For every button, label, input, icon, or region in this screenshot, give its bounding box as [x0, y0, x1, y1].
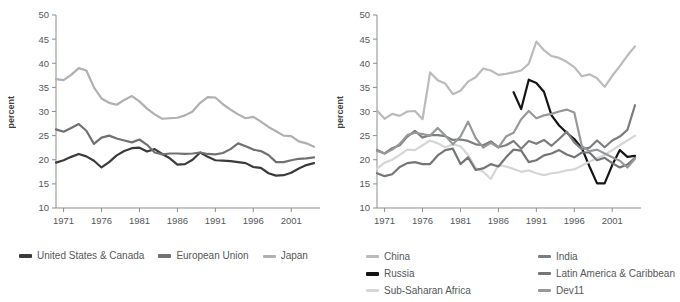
legend-label: Russia — [384, 266, 415, 282]
y-axis-tick-label: 20 — [38, 154, 49, 165]
legend-swatch-icon — [158, 254, 171, 258]
legend-swatch-icon — [19, 254, 32, 258]
y-axis-tick-label: 35 — [38, 82, 49, 93]
line-chart-left: 1015202530354045501971197619811986199119… — [0, 0, 327, 245]
x-axis-tick-label: 1986 — [488, 215, 509, 226]
legend-item-latin-america-caribbean[interactable]: Latin America & Caribbean — [538, 266, 680, 282]
legend-item-china[interactable]: China — [366, 249, 538, 265]
legend-label: United States & Canada — [37, 248, 144, 264]
legend-label: European Union — [176, 248, 248, 264]
legend-label: India — [556, 249, 578, 265]
y-axis-tick-label: 25 — [38, 130, 49, 141]
y-axis-tick-label: 15 — [359, 178, 370, 189]
chart-panel-emerging-economies: percent 10152025303540455019711976198119… — [327, 0, 653, 302]
legend-label: Sub-Saharan Africa — [384, 283, 471, 299]
legend-swatch-icon — [263, 255, 276, 258]
legend-left-row: United States & CanadaEuropean UnionJapa… — [0, 248, 327, 264]
y-axis-tick-label: 40 — [359, 58, 370, 69]
series-line-russia — [514, 80, 635, 184]
series-line-latin-america-caribbean — [377, 149, 635, 177]
x-axis-tick-label: 1986 — [167, 215, 188, 226]
legend-swatch-icon — [366, 255, 379, 258]
legend-item-dev11[interactable]: Dev11 — [538, 283, 680, 299]
y-axis-tick-label: 25 — [359, 130, 370, 141]
legend-swatch-icon — [538, 255, 551, 258]
legend-swatch-icon — [538, 289, 551, 292]
legend-item-japan[interactable]: Japan — [263, 248, 308, 264]
x-axis-tick-label: 1991 — [205, 215, 226, 226]
x-axis-tick-label: 1981 — [129, 215, 150, 226]
series-line-japan — [56, 68, 314, 147]
x-axis-tick-label: 2001 — [281, 215, 302, 226]
y-axis-tick-label: 35 — [359, 82, 370, 93]
legend-swatch-icon — [366, 289, 379, 292]
y-axis-tick-label: 45 — [38, 34, 49, 45]
x-axis-tick-label: 1991 — [526, 215, 547, 226]
y-axis-tick-label: 10 — [38, 202, 49, 213]
x-axis-tick-label: 1971 — [53, 215, 74, 226]
x-axis-tick-label: 1996 — [243, 215, 264, 226]
chart-panel-advanced-economies: percent 10152025303540455019711976198119… — [0, 0, 327, 302]
y-axis-tick-label: 10 — [359, 202, 370, 213]
y-axis-tick-label: 40 — [38, 58, 49, 69]
legend-item-sub-saharan-africa[interactable]: Sub-Saharan Africa — [366, 283, 538, 299]
x-axis-tick-label: 1976 — [91, 215, 112, 226]
legend-item-european-union[interactable]: European Union — [158, 248, 248, 264]
y-axis-tick-label: 20 — [359, 154, 370, 165]
legend-item-united-states-canada[interactable]: United States & Canada — [19, 248, 144, 264]
x-axis-tick-label: 2001 — [602, 215, 623, 226]
legend-left: United States & CanadaEuropean UnionJapa… — [0, 248, 327, 264]
legend-label: China — [384, 249, 410, 265]
y-axis-tick-label: 30 — [38, 106, 49, 117]
y-axis-tick-label: 30 — [359, 106, 370, 117]
series-line-china — [377, 42, 635, 120]
y-axis-tick-label: 50 — [359, 9, 370, 20]
legend-right: ChinaIndiaRussiaLatin America & Caribbea… — [327, 248, 680, 299]
legend-item-russia[interactable]: Russia — [366, 266, 538, 282]
line-chart-right: 1015202530354045501971197619811986199119… — [327, 0, 653, 245]
legend-label: Japan — [281, 248, 308, 264]
legend-swatch-icon — [366, 272, 379, 276]
y-axis-tick-label: 45 — [359, 34, 370, 45]
plot-area-right: 1015202530354045501971197619811986199119… — [327, 0, 653, 245]
x-axis-tick-label: 1981 — [450, 215, 471, 226]
x-axis-tick-label: 1996 — [564, 215, 585, 226]
legend-item-india[interactable]: India — [538, 249, 680, 265]
x-axis-tick-label: 1976 — [412, 215, 433, 226]
plot-area-left: 1015202530354045501971197619811986199119… — [0, 0, 327, 245]
y-axis-tick-label: 15 — [38, 178, 49, 189]
x-axis-tick-label: 1971 — [374, 215, 395, 226]
y-axis-tick-label: 50 — [38, 9, 49, 20]
legend-swatch-icon — [538, 272, 551, 275]
legend-label: Latin America & Caribbean — [556, 266, 675, 282]
legend-label: Dev11 — [556, 283, 584, 299]
